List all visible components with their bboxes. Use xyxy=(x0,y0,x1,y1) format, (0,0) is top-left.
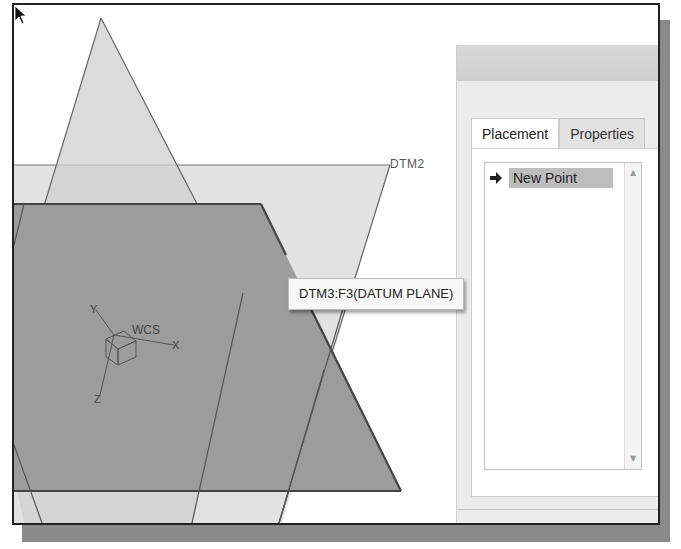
dialog-divider xyxy=(457,509,660,510)
x-axis-label: X xyxy=(172,339,179,351)
wcs-label: WCS xyxy=(132,323,160,337)
list-item-label: New Point xyxy=(509,168,613,188)
dialog-titlebar[interactable] xyxy=(457,45,660,81)
tab-properties[interactable]: Properties xyxy=(559,118,645,148)
mouse-cursor-icon xyxy=(14,5,28,25)
y-axis-label: Y xyxy=(90,303,97,315)
screenshot-frame: DTM2 WCS Y X Z DTM3:F3(DATUM PLANE) Plac… xyxy=(12,3,660,525)
list-item[interactable]: New Point xyxy=(489,167,613,189)
arrow-right-icon xyxy=(489,171,503,185)
listbox-scrollbar[interactable]: ▲ ▼ xyxy=(624,163,641,469)
placement-panel: New Point ▲ ▼ R xyxy=(471,148,660,497)
dialog-tabs: Placement Properties xyxy=(471,118,645,148)
tab-placement[interactable]: Placement xyxy=(471,118,559,149)
z-axis-label: Z xyxy=(94,393,101,405)
scroll-down-icon[interactable]: ▼ xyxy=(625,451,641,467)
preselection-tooltip: DTM3:F3(DATUM PLANE) xyxy=(288,278,464,310)
dtm2-label: DTM2 xyxy=(390,157,425,171)
scroll-up-icon[interactable]: ▲ xyxy=(625,165,641,181)
datum-point-dialog: Placement Properties New Point ▲ ▼ R xyxy=(456,45,660,525)
points-listbox[interactable]: New Point ▲ ▼ xyxy=(484,162,642,470)
